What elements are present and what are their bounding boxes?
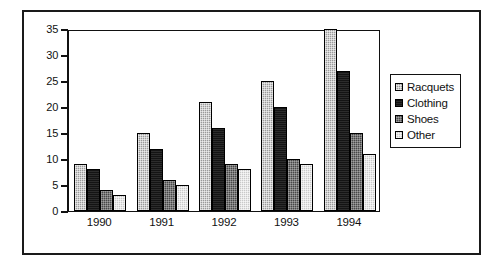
bar-clothing-1992 — [212, 128, 225, 211]
bar-other-1991 — [176, 185, 189, 211]
legend-swatch-clothing — [395, 99, 403, 107]
x-axis: 19901991199219931994 — [68, 216, 380, 238]
x-axis-tick-label-1990: 1990 — [69, 216, 129, 228]
x-axis-tick-label-1992: 1992 — [194, 216, 254, 228]
bar-shoes-1991 — [163, 180, 176, 211]
bar-other-1994 — [363, 154, 376, 211]
bar-shoes-1990 — [100, 190, 113, 211]
bar-other-1990 — [113, 195, 126, 211]
legend-item-other[interactable]: Other — [395, 127, 454, 143]
bar-group-1992 — [199, 31, 251, 211]
bar-racquets-1991 — [137, 133, 150, 211]
bar-racquets-1992 — [199, 102, 212, 211]
y-axis: 05101520253035 — [24, 30, 68, 212]
bar-other-1992 — [238, 169, 251, 211]
legend-swatch-other — [395, 131, 403, 139]
plot-area — [68, 30, 380, 212]
bar-clothing-1993 — [274, 107, 287, 211]
y-axis-tick-label: 30 — [28, 49, 58, 61]
bar-racquets-1994 — [324, 29, 337, 211]
bar-group-1990 — [74, 31, 126, 211]
x-axis-tick-label-1994: 1994 — [319, 216, 379, 228]
bar-clothing-1994 — [337, 71, 350, 211]
legend-item-shoes[interactable]: Shoes — [395, 111, 454, 127]
bar-group-1993 — [261, 31, 313, 211]
x-axis-tick-label-1993: 1993 — [256, 216, 316, 228]
legend-label-racquets: Racquets — [407, 81, 454, 93]
y-axis-tick-label: 25 — [28, 75, 58, 87]
y-axis-tick-label: 15 — [28, 127, 58, 139]
legend-item-clothing[interactable]: Clothing — [395, 95, 454, 111]
legend-swatch-shoes — [395, 115, 403, 123]
bar-shoes-1993 — [287, 159, 300, 211]
chart-frame: 05101520253035 19901991199219931994 Racq… — [22, 10, 481, 255]
y-axis-tick-label: 0 — [28, 205, 58, 217]
y-axis-tick-label: 10 — [28, 153, 58, 165]
bar-shoes-1994 — [350, 133, 363, 211]
legend-label-other: Other — [407, 129, 435, 141]
legend-swatch-racquets — [395, 83, 403, 91]
bar-racquets-1990 — [74, 164, 87, 211]
bar-clothing-1991 — [150, 149, 163, 211]
bar-group-1991 — [137, 31, 189, 211]
bar-group-1994 — [324, 31, 376, 211]
chart-legend: RacquetsClothingShoesOther — [390, 74, 461, 148]
bar-clothing-1990 — [87, 169, 100, 211]
legend-label-shoes: Shoes — [407, 113, 439, 125]
y-axis-tick-label: 20 — [28, 101, 58, 113]
bar-other-1993 — [300, 164, 313, 211]
x-axis-tick-label-1991: 1991 — [132, 216, 192, 228]
bar-shoes-1992 — [225, 164, 238, 211]
legend-item-racquets[interactable]: Racquets — [395, 79, 454, 95]
y-axis-tick-label: 35 — [28, 23, 58, 35]
legend-label-clothing: Clothing — [407, 97, 448, 109]
y-axis-tick-label: 5 — [28, 179, 58, 191]
bar-racquets-1993 — [261, 81, 274, 211]
